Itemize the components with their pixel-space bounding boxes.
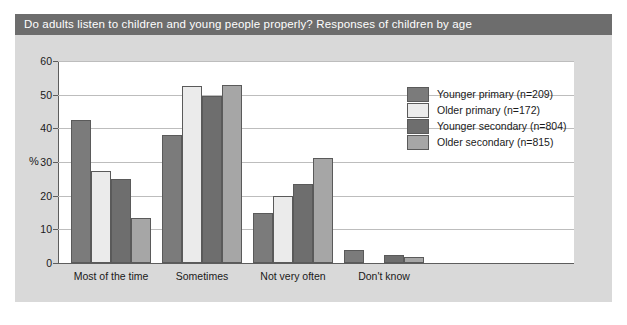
legend-label: Older secondary (n=815) — [437, 134, 553, 150]
legend-swatch — [407, 87, 429, 102]
bar-group — [71, 61, 151, 263]
y-axis-tick-mark — [53, 61, 58, 62]
bar — [313, 158, 333, 263]
bar — [131, 218, 151, 263]
y-axis-tick-label: 30 — [26, 156, 52, 168]
y-axis-tick-mark — [53, 196, 58, 197]
y-axis-tick-label: 60 — [26, 55, 52, 67]
y-axis-tick-mark — [53, 95, 58, 96]
bar-group — [162, 61, 242, 263]
bar — [404, 257, 424, 263]
legend-label: Older primary (n=172) — [437, 102, 540, 118]
bar — [162, 135, 182, 263]
legend-label: Younger secondary (n=804) — [437, 118, 567, 134]
legend-swatch — [407, 103, 429, 118]
bar — [111, 179, 131, 263]
y-axis-tick-label: 0 — [26, 257, 52, 269]
y-axis-tick-mark — [53, 162, 58, 163]
legend-swatch — [407, 119, 429, 134]
y-axis-tick-label: 10 — [26, 223, 52, 235]
y-axis-tick-mark — [53, 128, 58, 129]
y-axis-tick-mark — [53, 263, 58, 264]
chart-figure: Do adults listen to children and young p… — [15, 14, 612, 302]
y-axis-tick-label: 50 — [26, 89, 52, 101]
bar — [273, 196, 293, 263]
bar-group — [253, 61, 333, 263]
legend-swatch — [407, 135, 429, 150]
bar — [91, 171, 111, 263]
bar — [202, 96, 222, 263]
x-axis-category-label: Don't know — [324, 270, 444, 282]
bar — [293, 184, 313, 263]
bar — [253, 213, 273, 264]
bar — [182, 86, 202, 263]
bar — [222, 85, 242, 263]
bar — [384, 255, 404, 263]
bar — [71, 120, 91, 263]
legend-label: Younger primary (n=209) — [437, 86, 553, 102]
bar — [344, 250, 364, 263]
y-axis-tick-label: 40 — [26, 122, 52, 134]
chart-title: Do adults listen to children and young p… — [15, 14, 612, 35]
y-axis-tick-mark — [53, 229, 58, 230]
y-axis-tick-label: 20 — [26, 190, 52, 202]
